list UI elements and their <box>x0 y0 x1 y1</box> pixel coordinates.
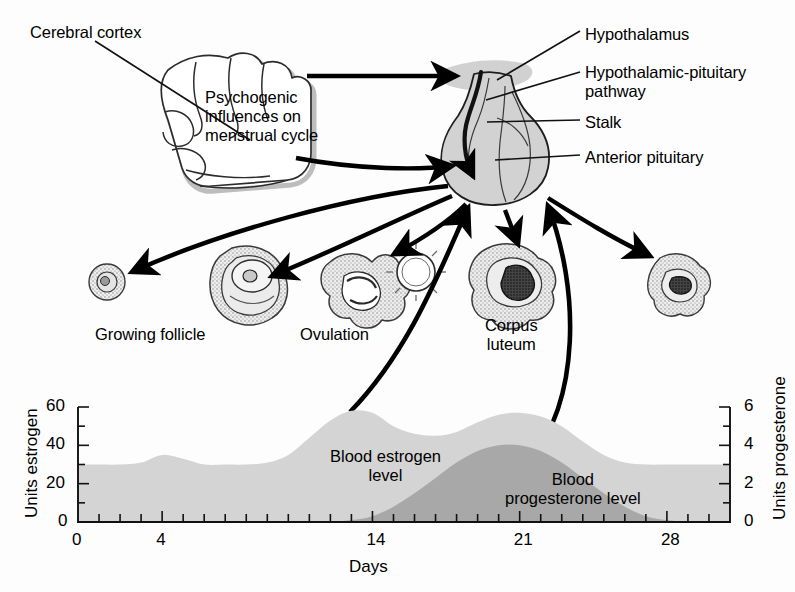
ytick-0: 0 <box>58 511 67 531</box>
label-cerebral_cortex: Cerebral cortex <box>30 23 141 42</box>
xtick-14: 14 <box>366 530 385 550</box>
xtick-28: 28 <box>661 530 680 550</box>
label-growing_follicle: Growing follicle <box>95 325 205 344</box>
xtick-0: 0 <box>72 530 81 550</box>
ytick-20: 20 <box>46 473 65 493</box>
yaxis-title: Units estrogen <box>22 408 42 518</box>
label-anterior_pituitary: Anterior pituitary <box>585 148 703 167</box>
label-hpp: Hypothalamic-pituitarypathway <box>585 63 746 101</box>
y2axis-title: Units progesterone <box>770 376 790 520</box>
ytick-60: 60 <box>46 396 65 416</box>
ovulation-illustration <box>321 243 446 328</box>
ytick-40: 40 <box>46 434 65 454</box>
label-stalk: Stalk <box>585 113 621 132</box>
annotation-blood-progesterone-level: Bloodprogesterone level <box>505 470 641 508</box>
y2tick-0: 0 <box>744 511 753 531</box>
corpus-albicans-illustration <box>648 254 711 316</box>
xtick-21: 21 <box>514 530 533 550</box>
xtick-4: 4 <box>156 530 165 550</box>
label-corpus_luteum: Corpusluteum <box>485 316 538 354</box>
y2tick-2: 2 <box>744 473 753 493</box>
figure-canvas: Cerebral cortexPsychogenicinfluences onm… <box>0 0 795 592</box>
annotation-blood-estrogen-level: Blood estrogenlevel <box>330 447 441 485</box>
growing-follicle-small-illustration <box>89 264 125 300</box>
y2tick-4: 4 <box>744 434 753 454</box>
growing-follicle-illustration <box>210 246 288 325</box>
xaxis-title: Days <box>349 557 388 577</box>
y2tick-6: 6 <box>744 396 753 416</box>
anterior-pituitary-illustration <box>441 72 549 205</box>
label-hypothalamus: Hypothalamus <box>585 25 689 44</box>
label-psychogenic: Psychogenicinfluences onmenstrual cycle <box>205 88 318 145</box>
label-ovulation: Ovulation <box>300 325 369 344</box>
psychogenic-influence-arrow <box>296 76 456 168</box>
